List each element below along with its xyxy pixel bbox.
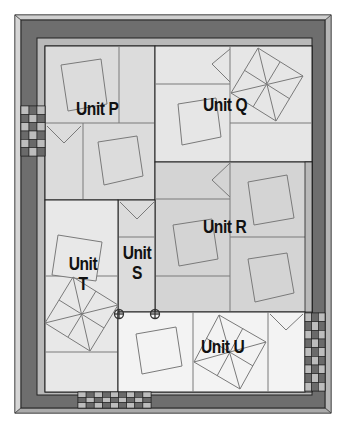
checker-cell bbox=[86, 392, 94, 397]
checker-cell bbox=[312, 356, 319, 365]
checker-cell bbox=[21, 131, 29, 139]
checker-cell bbox=[86, 397, 94, 402]
checkerboard-left bbox=[21, 106, 45, 156]
checker-cell bbox=[318, 382, 325, 391]
checker-cell bbox=[305, 313, 312, 322]
checkerboard-right bbox=[305, 313, 325, 391]
checker-cell bbox=[21, 106, 29, 114]
checker-cell bbox=[305, 348, 312, 357]
checker-cell bbox=[119, 392, 127, 397]
checker-cell bbox=[37, 148, 45, 156]
checker-cell bbox=[29, 114, 37, 122]
checker-cell bbox=[135, 403, 143, 408]
checker-cell bbox=[135, 392, 143, 397]
checker-cell bbox=[37, 106, 45, 114]
checker-cell bbox=[318, 374, 325, 383]
checker-cell bbox=[305, 339, 312, 348]
unit-u-label-text: Unit U bbox=[201, 336, 244, 357]
checker-cell bbox=[312, 330, 319, 339]
checker-cell bbox=[119, 403, 127, 408]
checker-cell bbox=[305, 322, 312, 331]
checker-cell bbox=[312, 374, 319, 383]
quilt-diagram bbox=[0, 0, 349, 432]
unit-s-label-line2: S bbox=[117, 263, 158, 283]
checker-cell bbox=[312, 348, 319, 357]
unit-r-block bbox=[155, 162, 312, 312]
checker-cell bbox=[305, 365, 312, 374]
checker-cell bbox=[143, 397, 151, 402]
checker-cell bbox=[318, 313, 325, 322]
checker-cell bbox=[102, 397, 110, 402]
checker-cell bbox=[86, 403, 94, 408]
junction-marker-right bbox=[150, 309, 160, 319]
checker-cell bbox=[29, 148, 37, 156]
checker-cell bbox=[37, 131, 45, 139]
unit-s-label: Unit S bbox=[117, 243, 158, 283]
checker-cell bbox=[21, 139, 29, 147]
checker-cell bbox=[312, 382, 319, 391]
checker-cell bbox=[135, 397, 143, 402]
checker-cell bbox=[21, 148, 29, 156]
unit-q-label-text: Unit Q bbox=[203, 94, 247, 115]
unit-t-block bbox=[45, 200, 118, 392]
checker-cell bbox=[305, 356, 312, 365]
checker-cell bbox=[78, 403, 86, 408]
checker-cell bbox=[127, 397, 135, 402]
checker-cell bbox=[37, 139, 45, 147]
checker-cell bbox=[29, 139, 37, 147]
unit-r-label-text: Unit R bbox=[203, 216, 246, 237]
checker-cell bbox=[305, 374, 312, 383]
checker-cell bbox=[312, 339, 319, 348]
unit-t-label-line1: Unit bbox=[63, 254, 104, 274]
unit-u-label: Unit U bbox=[201, 337, 244, 357]
checkerboard-bottom bbox=[78, 392, 151, 408]
checker-cell bbox=[29, 131, 37, 139]
checker-cell bbox=[312, 365, 319, 374]
checker-cell bbox=[78, 397, 86, 402]
checker-cell bbox=[318, 348, 325, 357]
unit-s-label-line1: Unit bbox=[117, 243, 158, 263]
checker-cell bbox=[94, 403, 102, 408]
checker-cell bbox=[119, 397, 127, 402]
junction-marker-left bbox=[114, 309, 124, 319]
checker-cell bbox=[110, 392, 118, 397]
unit-q-label: Unit Q bbox=[203, 95, 247, 115]
checker-cell bbox=[102, 392, 110, 397]
checker-cell bbox=[110, 397, 118, 402]
unit-r-label: Unit R bbox=[203, 217, 246, 237]
unit-p-label: Unit P bbox=[76, 99, 119, 119]
checker-cell bbox=[102, 403, 110, 408]
checker-cell bbox=[37, 114, 45, 122]
unit-t-label-line2: T bbox=[63, 274, 104, 294]
checker-cell bbox=[318, 322, 325, 331]
checker-cell bbox=[143, 392, 151, 397]
unit-t-label: Unit T bbox=[63, 254, 104, 294]
checker-cell bbox=[312, 322, 319, 331]
checker-cell bbox=[94, 397, 102, 402]
checker-cell bbox=[78, 392, 86, 397]
checker-cell bbox=[94, 392, 102, 397]
checker-cell bbox=[29, 106, 37, 114]
checker-cell bbox=[110, 403, 118, 408]
unit-p-label-text: Unit P bbox=[76, 98, 119, 119]
checker-cell bbox=[318, 339, 325, 348]
checker-cell bbox=[37, 123, 45, 131]
checker-cell bbox=[318, 365, 325, 374]
checker-cell bbox=[127, 392, 135, 397]
checker-cell bbox=[305, 330, 312, 339]
unit-p-block bbox=[45, 46, 155, 200]
checker-cell bbox=[29, 123, 37, 131]
checker-cell bbox=[305, 382, 312, 391]
checker-cell bbox=[312, 313, 319, 322]
checker-cell bbox=[318, 330, 325, 339]
checker-cell bbox=[21, 123, 29, 131]
checker-cell bbox=[127, 403, 135, 408]
checker-cell bbox=[21, 114, 29, 122]
checker-cell bbox=[143, 403, 151, 408]
checker-cell bbox=[318, 356, 325, 365]
